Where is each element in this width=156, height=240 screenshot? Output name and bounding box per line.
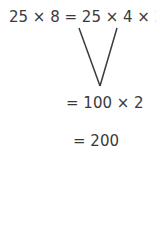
equation-line-2: = 100 × 2 bbox=[66, 94, 144, 112]
equation-line-3: = 200 bbox=[73, 132, 119, 150]
